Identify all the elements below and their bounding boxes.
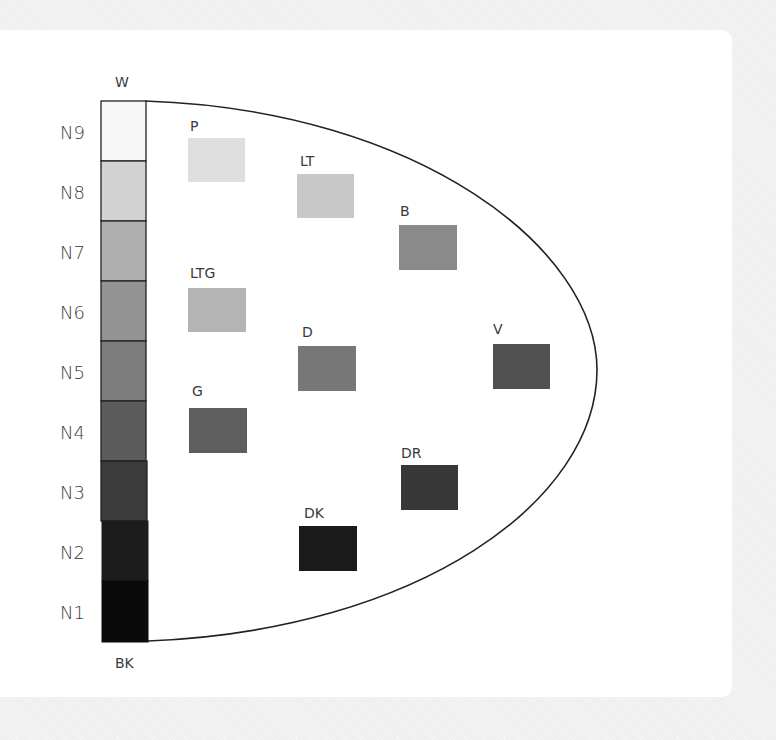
scale-label-n8: N8 — [60, 182, 85, 203]
scale-label-n4: N4 — [60, 422, 85, 443]
scale-label-n3: N3 — [60, 482, 85, 503]
value-scale — [101, 101, 148, 642]
tone-label: LT — [300, 153, 315, 169]
scale-label-n5: N5 — [60, 362, 85, 383]
tone-swatch-d: D — [298, 324, 356, 391]
tone-label: LTG — [190, 265, 215, 281]
scale-step-n2 — [102, 521, 148, 581]
scale-label-n6: N6 — [60, 302, 85, 323]
tone-swatch-rect — [399, 225, 457, 270]
tone-swatch-rect — [401, 465, 458, 510]
tone-swatch-g: G — [189, 383, 247, 453]
tone-swatch-rect — [299, 526, 357, 571]
tone-swatch-rect — [297, 174, 354, 218]
tone-label: D — [302, 324, 313, 340]
scale-step-n7 — [101, 221, 146, 281]
tone-label: B — [400, 203, 410, 219]
tone-swatch-p: P — [188, 118, 245, 182]
scale-step-n4 — [101, 401, 146, 461]
tone-label: G — [192, 383, 203, 399]
scale-top-label: W — [115, 74, 129, 90]
tone-label: V — [493, 321, 503, 337]
tone-swatch-rect — [298, 346, 356, 391]
tone-diagram: W BK N9 N8 N7 N6 N5 N4 N3 N2 N1 P LT B L… — [0, 0, 776, 740]
scale-label-n2: N2 — [60, 542, 85, 563]
tone-label: P — [190, 118, 198, 134]
scale-step-n3 — [101, 461, 147, 521]
tone-swatch-rect — [189, 408, 247, 453]
tone-swatch-dk: DK — [299, 505, 357, 571]
tone-swatch-rect — [188, 138, 245, 182]
scale-step-n1 — [102, 581, 148, 642]
scale-label-n9: N9 — [60, 122, 85, 143]
tone-swatch-rect — [493, 344, 550, 389]
tone-swatch-dr: DR — [401, 445, 458, 510]
tone-swatch-rect — [188, 288, 246, 332]
scale-label-n1: N1 — [60, 602, 85, 623]
scale-step-n6 — [101, 281, 146, 341]
tone-swatch-lt: LT — [297, 153, 354, 218]
tone-swatch-b: B — [399, 203, 457, 270]
tone-label: DK — [304, 505, 325, 521]
tone-swatch-v: V — [493, 321, 550, 389]
tone-swatch-ltg: LTG — [188, 265, 246, 332]
scale-step-n5 — [101, 341, 146, 401]
tone-label: DR — [401, 445, 422, 461]
scale-step-n9 — [101, 101, 146, 161]
scale-label-n7: N7 — [60, 242, 85, 263]
scale-bottom-label: BK — [115, 655, 135, 671]
scale-step-n8 — [101, 161, 146, 221]
